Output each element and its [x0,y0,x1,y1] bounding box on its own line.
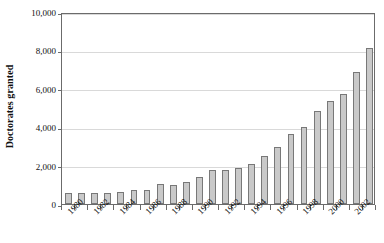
x-axis-tickmark [375,205,376,210]
y-axis-tick-labels: 02,0004,0006,0008,00010,000 [18,0,60,212]
bar-chart: Doctorates granted 02,0004,0006,0008,000… [0,0,384,243]
bar [248,164,255,204]
y-axis-tick-label: 0 [52,201,57,210]
bar [314,111,321,204]
bar [353,72,360,204]
bar [196,177,203,204]
bars-layer [62,14,374,204]
plot-area [61,13,375,205]
bar [301,127,308,204]
y-axis-tick-label: 10,000 [31,9,56,18]
y-axis-tick-label: 8,000 [36,47,56,56]
y-axis-tick-label: 2,000 [36,162,56,171]
y-axis-title: Doctorates granted [0,0,20,212]
bar [222,170,229,204]
bar [366,48,373,204]
bar [274,147,281,204]
bar [261,156,268,204]
bar [327,101,334,204]
x-axis-tick-labels: 1980198219841986198819901992199419961998… [61,210,375,243]
y-axis-title-label: Doctorates granted [5,64,16,148]
bar [340,94,347,204]
y-axis-tick-label: 4,000 [36,124,56,133]
y-axis-tick-label: 6,000 [36,85,56,94]
bar [288,134,295,204]
